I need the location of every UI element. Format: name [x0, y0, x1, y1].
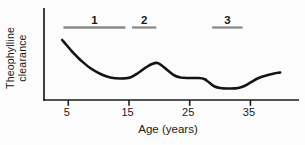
x-tick-label: 5: [64, 106, 70, 118]
y-axis-label: Theophylline clearance: [4, 18, 30, 98]
annotation-label: 1: [91, 14, 98, 26]
x-tick-label: 35: [243, 106, 255, 118]
theophylline-clearance-figure: 5152535123 Theophylline clearance Age (y…: [0, 0, 305, 145]
x-tick-label: 15: [121, 106, 133, 118]
x-tick-label: 25: [182, 106, 194, 118]
annotation-label: 3: [224, 14, 230, 26]
annotation-label: 2: [141, 14, 147, 26]
clearance-curve: [62, 40, 280, 89]
x-axis-label: Age (years): [108, 123, 228, 135]
